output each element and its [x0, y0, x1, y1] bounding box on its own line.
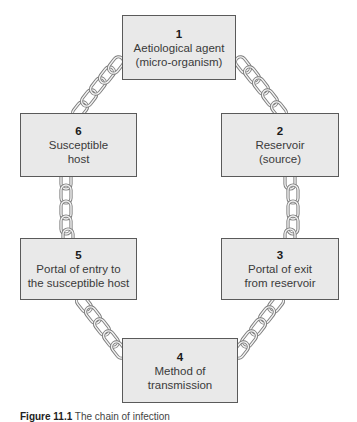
node-label-line: from reservoir	[245, 276, 316, 290]
node-number: 4	[177, 350, 183, 364]
node-susceptible-host: 6 Susceptible host	[20, 113, 137, 177]
node-label-line: Aetiological agent	[134, 41, 225, 55]
node-label-line: Method of	[154, 364, 205, 378]
chain-6-to-1	[71, 55, 126, 120]
figure-caption: Figure 11.1 The chain of infection	[20, 411, 170, 422]
node-label-line: (source)	[259, 152, 301, 166]
node-portal-of-entry: 5 Portal of entry to the susceptible hos…	[20, 238, 137, 300]
node-label-line: transmission	[148, 378, 213, 392]
figure-label: Figure 11.1	[20, 411, 72, 422]
node-method-of-transmission: 4 Method of transmission	[122, 338, 238, 403]
node-number: 5	[75, 248, 81, 262]
node-aetiological-agent: 1 Aetiological agent (micro-organism)	[122, 15, 236, 80]
node-portal-of-exit: 3 Portal of exit from reservoir	[221, 238, 339, 300]
node-number: 1	[176, 27, 182, 41]
node-label-line: host	[68, 152, 90, 166]
node-label-line: Reservoir	[255, 138, 304, 152]
node-label-line: the susceptible host	[28, 276, 130, 290]
chain-5-to-4	[75, 294, 129, 360]
chain-1-to-2	[234, 55, 289, 120]
node-label-line: Portal of entry to	[36, 262, 120, 276]
node-label-line: (micro-organism)	[136, 55, 223, 69]
node-label-line: Susceptible	[49, 138, 108, 152]
chain-6-to-5	[61, 171, 73, 247]
chain-3-to-4	[232, 294, 286, 360]
node-reservoir: 2 Reservoir (source)	[221, 113, 339, 177]
node-number: 6	[75, 124, 81, 138]
figure-caption-text: The chain of infection	[75, 411, 170, 422]
node-number: 3	[277, 248, 283, 262]
node-label-line: Portal of exit	[248, 262, 312, 276]
node-number: 2	[277, 124, 283, 138]
chain-2-to-3	[285, 171, 298, 247]
